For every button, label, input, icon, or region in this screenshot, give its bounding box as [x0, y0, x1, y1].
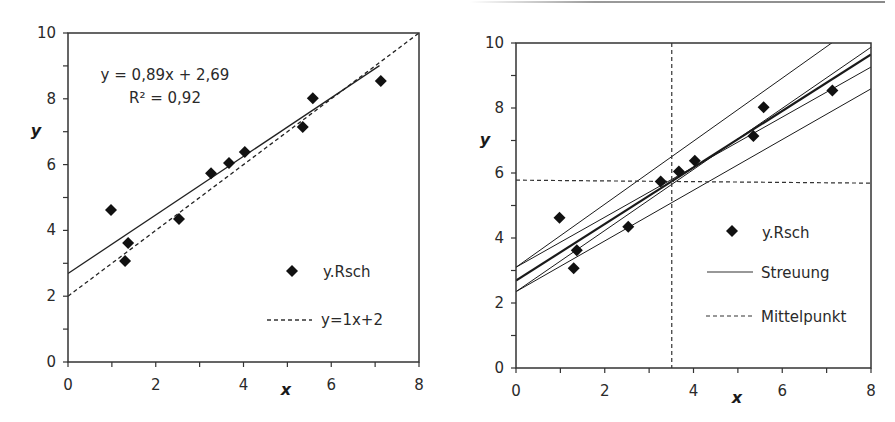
left-scatter-chart: 024680246810 y = 0,89x + 2,69 R² = 0,92 … [0, 0, 450, 422]
data-point [205, 167, 217, 179]
data-point [223, 157, 235, 169]
y-tick-label: 6 [46, 156, 56, 174]
legend: y.Rsch y=1x+2 [267, 263, 383, 329]
y-tick-label: 2 [494, 294, 504, 312]
spread-line [516, 54, 871, 280]
data-point [655, 175, 667, 187]
data-point [568, 262, 580, 274]
data-point [673, 165, 685, 177]
legend-label-streuung: Streuung [761, 264, 830, 282]
data-point [375, 75, 387, 87]
x-axis-title: x [280, 380, 292, 399]
x-tick-label: 8 [866, 382, 876, 400]
y-tick-label: 8 [46, 90, 56, 108]
y-tick-label: 10 [485, 34, 504, 52]
y-axis-title: y [31, 121, 42, 140]
series-layer [516, 15, 871, 368]
center-horizontal-line [516, 180, 871, 183]
data-point [105, 204, 117, 216]
y-tick-label: 6 [494, 164, 504, 182]
data-point [826, 84, 838, 96]
y-tick-label: 8 [494, 99, 504, 117]
legend-label-mittelpunkt: Mittelpunkt [761, 308, 846, 326]
y-tick-label: 2 [46, 287, 56, 305]
trend-line [68, 66, 380, 274]
y-tick-label: 4 [46, 221, 56, 239]
data-point [173, 213, 185, 225]
data-point [571, 244, 583, 256]
x-tick-label: 8 [414, 376, 424, 394]
y-axis-title: y [480, 130, 491, 149]
axes: 024680246810 [37, 24, 424, 394]
x-tick-label: 6 [326, 376, 336, 394]
y-tick-label: 0 [494, 359, 504, 377]
x-tick-label: 2 [600, 382, 610, 400]
spread-line [516, 67, 871, 267]
spread-line [516, 15, 871, 267]
regression-equation: y = 0,89x + 2,69 [101, 66, 230, 84]
diamond-marker-icon [286, 265, 298, 277]
x-tick-label: 0 [511, 382, 521, 400]
plot-frame [516, 43, 871, 368]
legend-label-yrsch: y.Rsch [762, 224, 810, 242]
data-point [622, 221, 634, 233]
data-point [239, 146, 251, 158]
spread-line [516, 89, 871, 292]
r-squared: R² = 0,92 [129, 89, 201, 107]
x-axis-title: x [731, 388, 743, 407]
x-tick-label: 6 [777, 382, 787, 400]
legend: y.Rsch Streuung Mittelpunkt [706, 224, 846, 326]
data-point [758, 101, 770, 113]
axes: 024680246810 [485, 34, 876, 400]
plot-content [516, 15, 871, 368]
data-point [122, 237, 134, 249]
data-point [689, 155, 701, 167]
legend-label-yrsch: y.Rsch [323, 263, 371, 281]
data-point [747, 130, 759, 142]
y-tick-label: 4 [494, 229, 504, 247]
x-tick-label: 2 [151, 376, 161, 394]
y-tick-label: 0 [46, 353, 56, 371]
diamond-marker-icon [726, 225, 738, 237]
top-border-line [470, 1, 885, 3]
legend-label-identity: y=1x+2 [321, 311, 383, 329]
data-point [307, 92, 319, 104]
data-point [553, 212, 565, 224]
x-tick-label: 0 [63, 376, 73, 394]
spread-line [516, 47, 871, 291]
x-tick-label: 4 [689, 382, 699, 400]
x-tick-label: 4 [239, 376, 249, 394]
y-tick-label: 10 [37, 24, 56, 42]
